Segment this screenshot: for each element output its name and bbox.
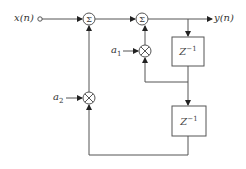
coefficient-a1-label: a1	[111, 45, 121, 58]
adder-1-symbol: Σ	[86, 15, 92, 24]
delay-1-label: Z−1	[172, 46, 204, 57]
coefficient-a2-label: a2	[53, 92, 63, 105]
adder-2-symbol: Σ	[139, 15, 145, 24]
delay-2-label: Z−1	[172, 116, 206, 127]
block-diagram: Σ Σ	[0, 0, 246, 169]
input-node	[38, 17, 42, 21]
output-label: y(n)	[214, 13, 234, 23]
input-label: x(n)	[14, 13, 34, 23]
